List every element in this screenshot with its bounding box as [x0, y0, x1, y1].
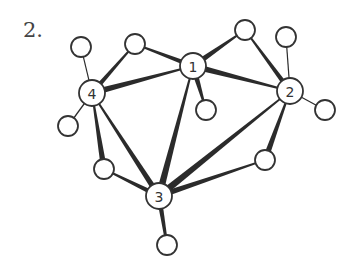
leaf-node [196, 100, 216, 120]
graph-diagram: 1234 [0, 0, 360, 261]
node-circle [71, 37, 91, 57]
node-circle [196, 100, 216, 120]
node-circle [125, 34, 145, 54]
node-4: 4 [79, 80, 105, 106]
node-circle [276, 27, 296, 47]
node-circle [157, 235, 177, 255]
leaf-node [125, 34, 145, 54]
leaf-node [71, 37, 91, 57]
node-label: 4 [88, 86, 97, 102]
node-label: 3 [155, 189, 164, 205]
node-1: 1 [180, 53, 206, 79]
leaf-node [58, 116, 78, 136]
leaf-node [276, 27, 296, 47]
edge-4-1 [91, 65, 193, 96]
node-circle [94, 159, 114, 179]
leaf-node [315, 100, 335, 120]
node-2: 2 [277, 78, 303, 104]
node-circle [58, 116, 78, 136]
edge-1-2 [192, 63, 290, 92]
edge-1-3 [156, 66, 194, 197]
leaf-node [255, 150, 275, 170]
node-label: 1 [189, 59, 198, 75]
node-circle [235, 20, 255, 40]
leaf-node [157, 235, 177, 255]
edge-i-3 [158, 159, 265, 199]
node-circle [315, 100, 335, 120]
node-3: 3 [146, 183, 172, 209]
leaf-node [94, 159, 114, 179]
leaf-node [235, 20, 255, 40]
node-circle [255, 150, 275, 170]
node-label: 2 [286, 84, 295, 100]
